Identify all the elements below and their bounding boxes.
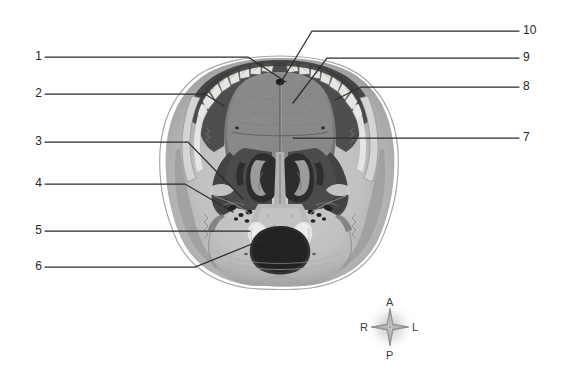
compass-label-left: L bbox=[412, 322, 418, 333]
label-number-4[interactable]: 4 bbox=[30, 177, 42, 189]
compass-label-anterior: A bbox=[386, 297, 393, 308]
label-number-3[interactable]: 3 bbox=[30, 135, 42, 147]
label-number-5[interactable]: 5 bbox=[30, 224, 42, 236]
compass-label-right: R bbox=[360, 322, 368, 333]
label-number-10[interactable]: 10 bbox=[523, 24, 536, 36]
compass-rose-group bbox=[369, 306, 411, 348]
label-number-2[interactable]: 2 bbox=[30, 87, 42, 99]
label-number-7[interactable]: 7 bbox=[523, 131, 530, 143]
label-number-8[interactable]: 8 bbox=[523, 80, 530, 92]
label-number-1[interactable]: 1 bbox=[30, 50, 42, 62]
label-number-6[interactable]: 6 bbox=[30, 260, 42, 272]
skull-inferior-view-figure bbox=[0, 0, 564, 375]
compass-label-posterior: P bbox=[386, 350, 393, 361]
label-number-9[interactable]: 9 bbox=[523, 51, 530, 63]
